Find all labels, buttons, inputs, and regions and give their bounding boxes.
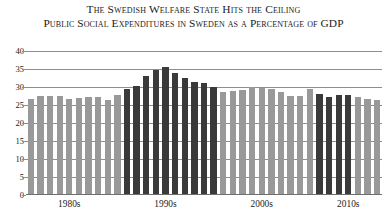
bar <box>95 97 101 195</box>
bar <box>307 89 313 195</box>
bar <box>105 100 111 195</box>
chart-subtitle: Public Social Expenditures in Sweden as … <box>0 16 387 30</box>
bar <box>182 78 188 195</box>
bar-series <box>26 51 382 195</box>
bar <box>287 96 293 195</box>
y-axis-tick-label: 0 <box>0 191 24 199</box>
chart-titles: The Swedish Welfare State Hits the Ceili… <box>0 2 387 30</box>
bar <box>191 82 197 195</box>
bar <box>355 97 361 195</box>
bar <box>133 86 139 195</box>
chart-page: The Swedish Welfare State Hits the Ceili… <box>0 0 387 219</box>
bar <box>47 96 53 195</box>
bar <box>57 96 63 195</box>
bar <box>37 96 43 195</box>
x-axis-tick-label: 2010s <box>337 199 359 209</box>
bar <box>374 100 380 195</box>
bar <box>297 96 303 195</box>
plot-wrapper: 0510152025303540 <box>0 44 387 199</box>
plot-area <box>26 51 382 195</box>
bar <box>153 70 159 195</box>
bar <box>259 88 265 195</box>
y-axis-tick-label: 25 <box>0 101 24 109</box>
y-axis-tick-label: 30 <box>0 83 24 91</box>
bar <box>316 94 322 195</box>
bar <box>336 95 342 195</box>
bar <box>28 99 34 195</box>
x-axis-labels: 1980s1990s2000s2010s <box>26 199 382 217</box>
bar <box>66 99 72 195</box>
bar <box>76 98 82 195</box>
y-axis-tick-label: 20 <box>0 119 24 127</box>
bar <box>230 91 236 195</box>
bar <box>172 73 178 195</box>
x-axis-tick-label: 1980s <box>58 199 80 209</box>
bar <box>278 92 284 195</box>
y-axis-tick-label: 15 <box>0 137 24 145</box>
y-axis-tick-mark <box>22 105 26 106</box>
bar <box>124 89 130 195</box>
bar <box>114 95 120 195</box>
y-axis-tick-label: 10 <box>0 155 24 163</box>
y-axis-tick-mark <box>22 69 26 70</box>
bar <box>345 95 351 195</box>
y-axis-tick-mark <box>22 123 26 124</box>
y-axis-tick-label: 5 <box>0 173 24 181</box>
x-axis-tick-label: 2000s <box>251 199 273 209</box>
bar <box>364 99 370 195</box>
bar <box>326 97 332 195</box>
bar <box>239 90 245 195</box>
axis-baseline <box>26 194 382 195</box>
y-axis-tick-label: 40 <box>0 47 24 55</box>
bar <box>162 67 168 195</box>
bar <box>268 89 274 195</box>
y-axis-tick-label: 35 <box>0 65 24 73</box>
bar <box>143 76 149 195</box>
y-axis-tick-mark <box>22 51 26 52</box>
bar <box>220 92 226 195</box>
y-axis-tick-mark <box>22 87 26 88</box>
y-axis-tick-mark <box>22 159 26 160</box>
bar <box>249 87 255 195</box>
y-axis-tick-mark <box>22 141 26 142</box>
y-axis-tick-mark <box>22 195 26 196</box>
bar <box>201 83 207 195</box>
page-title: The Swedish Welfare State Hits the Ceili… <box>0 2 387 16</box>
y-axis-tick-mark <box>22 177 26 178</box>
bar <box>210 87 216 195</box>
bar <box>85 97 91 195</box>
x-axis-tick-label: 1990s <box>154 199 176 209</box>
